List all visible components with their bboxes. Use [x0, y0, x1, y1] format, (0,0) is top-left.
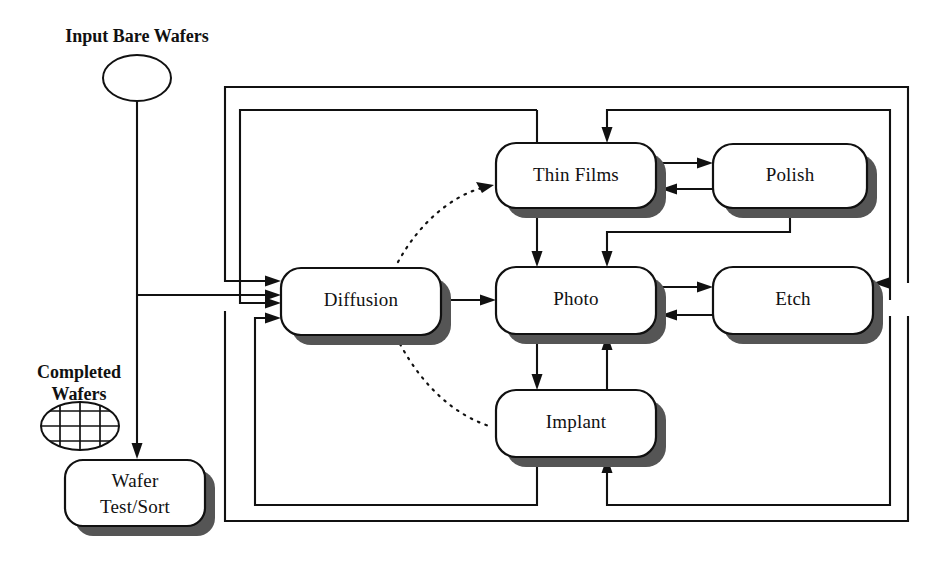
arrowhead-polish-to-photo: [602, 251, 613, 267]
arrowhead-thin-films-to-polish: [697, 158, 713, 169]
diffusion-label: Diffusion: [324, 289, 399, 310]
node-layer: Diffusion Thin Films Polish Photo: [65, 143, 883, 536]
node-photo[interactable]: Photo: [496, 267, 666, 344]
polish-label: Polish: [766, 164, 815, 185]
arrowhead-top-return-outer-diffusion: [265, 276, 281, 287]
arrowhead-top-inner-to-diffusion: [265, 298, 281, 309]
input-bare-wafers-caption: Input Bare Wafers: [65, 26, 208, 46]
arrowhead-diffusion-to-thin-films-dotted: [476, 182, 494, 193]
edge-diffusion-to-implant-dotted: [400, 344, 492, 427]
wafer-test-sort-label-line1: Wafer: [112, 470, 159, 491]
arrowhead-diffusion-to-photo: [480, 295, 496, 306]
arrowhead-top-return-inner: [602, 127, 613, 143]
node-diffusion[interactable]: Diffusion: [281, 268, 451, 345]
edge-bottom-return-inner: [255, 318, 537, 505]
etch-label: Etch: [775, 288, 811, 309]
completed-wafers-grid: [38, 400, 122, 452]
flowchart-svg: Diffusion Thin Films Polish Photo: [0, 0, 939, 561]
node-wafer-test-sort[interactable]: Wafer Test/Sort: [65, 460, 215, 536]
completed-wafers-caption-line2: Wafers: [52, 384, 107, 404]
node-polish[interactable]: Polish: [713, 144, 877, 218]
arrowhead-input-to-wafer-test: [132, 443, 143, 459]
arrowhead-bottom-return-inner: [265, 313, 281, 324]
arrowhead-photo-to-etch: [697, 282, 713, 293]
photo-label: Photo: [553, 288, 598, 309]
completed-wafers-icon[interactable]: [38, 400, 122, 452]
completed-wafers-caption-line1: Completed: [37, 362, 121, 382]
input-bare-wafers-ellipse[interactable]: [103, 55, 171, 101]
arrowhead-thin-films-to-photo: [532, 251, 543, 267]
node-implant[interactable]: Implant: [496, 390, 666, 467]
node-etch[interactable]: Etch: [713, 267, 883, 344]
wafer-test-sort-label-line2: Test/Sort: [100, 496, 171, 517]
arrowhead-photo-to-implant: [532, 374, 543, 390]
diagram-canvas: Diffusion Thin Films Polish Photo: [0, 0, 939, 561]
thin-films-label: Thin Films: [533, 164, 619, 185]
implant-label: Implant: [546, 411, 607, 432]
node-thin-films[interactable]: Thin Films: [496, 143, 666, 218]
edge-diffusion-to-thin-films-dotted: [398, 188, 482, 262]
